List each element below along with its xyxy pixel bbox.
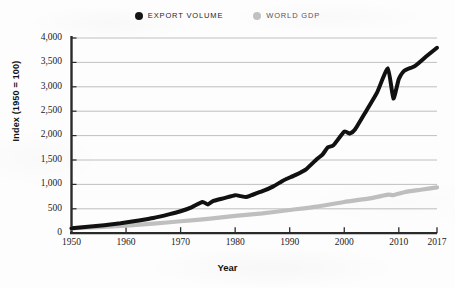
y-tick-label: 3,000 (18, 82, 62, 92)
x-tick-label: 1970 (159, 238, 203, 248)
x-tick-label: 1980 (213, 238, 257, 248)
y-tick-label: 500 (18, 204, 62, 214)
y-tick-label: 2,000 (18, 130, 62, 140)
x-tick-label: 1950 (50, 238, 94, 248)
y-tick-label: 1,000 (18, 179, 62, 189)
x-tick-label: 2017 (415, 238, 455, 248)
y-tick-label: 4,000 (18, 33, 62, 43)
chart-figure: EXPORT VOLUME WORLD GDP Index (1950 = 10… (0, 0, 455, 288)
gridlines (72, 38, 438, 209)
x-tick-label: 1960 (104, 238, 148, 248)
y-tick-label: 0 (18, 228, 62, 238)
y-tick-label: 1,500 (18, 155, 62, 165)
y-tick-label: 3,500 (18, 57, 62, 67)
x-tick-label: 1990 (268, 238, 312, 248)
x-tick-label: 2000 (322, 238, 366, 248)
series-line-export-volume (72, 48, 438, 229)
y-tick-label: 2,500 (18, 106, 62, 116)
